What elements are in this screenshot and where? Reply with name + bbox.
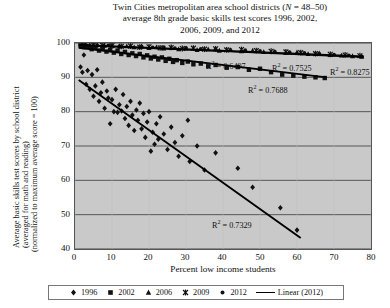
- legend-item-2002[interactable]: 2002: [106, 288, 134, 297]
- x-tick-80: 80: [359, 252, 383, 262]
- legend-item-2009[interactable]: 2009: [181, 288, 209, 297]
- legend-label: 2012: [230, 288, 246, 297]
- y-tick-60: 60: [48, 174, 70, 184]
- r2-2002-label: R2 = 0.7688: [248, 84, 288, 95]
- x-axis-title: Percent low income students: [74, 264, 372, 274]
- legend-label: 2006: [156, 288, 172, 297]
- legend-label: 2002: [118, 288, 134, 297]
- x-tick-50: 50: [248, 252, 272, 262]
- x-tick-70: 70: [322, 252, 346, 262]
- legend-cross-marker-icon: [181, 288, 190, 297]
- r2-2006-label: R2 = 0.6497: [206, 60, 246, 71]
- title-line-1: Twin Cities metropolitan area school dis…: [113, 2, 327, 12]
- y-tick-70: 70: [48, 140, 70, 150]
- legend-diamond-marker-icon: [69, 288, 78, 297]
- chart-figure: Twin Cities metropolitan area school dis…: [0, 0, 390, 308]
- x-tick-10: 10: [99, 252, 123, 262]
- y-axis-title-line-3: (normalized to maximum average score = 1…: [30, 96, 39, 252]
- chart-legend: 19962002200620092012Linear (2012): [48, 285, 344, 300]
- chart-title: Twin Cities metropolitan area school dis…: [55, 2, 385, 36]
- legend-triangle-marker-icon: [144, 288, 153, 297]
- x-tick-40: 40: [210, 252, 234, 262]
- r2-1996-label: R2 = 0.7329: [212, 219, 252, 230]
- y-axis-title-line-1: Average basic skills test scores by scho…: [12, 86, 21, 248]
- r2-2012-label: R2 = 0.8275: [330, 66, 370, 77]
- y-axis-title: Average basic skills test scores by scho…: [0, 0, 46, 260]
- title-line-3: 2006, 2009, and 2012: [180, 25, 260, 35]
- legend-label: 1996: [81, 288, 97, 297]
- y-tick-90: 90: [48, 71, 70, 81]
- y-tick-100: 100: [48, 37, 70, 47]
- legend-label: Linear (2012): [278, 288, 323, 297]
- y-tick-80: 80: [48, 105, 70, 115]
- y-axis-title-line-2: (averaged for math and reading): [21, 141, 30, 248]
- legend-item-2006[interactable]: 2006: [144, 288, 172, 297]
- legend-dot-marker-icon: [218, 288, 227, 297]
- legend-square-marker-icon: [106, 288, 115, 297]
- legend-line-marker: [256, 292, 275, 293]
- x-tick-20: 20: [136, 252, 160, 262]
- legend-item-linear-2012[interactable]: Linear (2012): [256, 288, 323, 297]
- r2-2009-label: R2 = 0.7525: [272, 62, 312, 73]
- x-tick-30: 30: [173, 252, 197, 262]
- y-tick-50: 50: [48, 209, 70, 219]
- x-tick-0: 0: [62, 252, 86, 262]
- legend-label: 2009: [193, 288, 209, 297]
- legend-item-2012[interactable]: 2012: [218, 288, 246, 297]
- series-1996: [78, 52, 299, 233]
- legend-item-1996[interactable]: 1996: [69, 288, 97, 297]
- title-line-2: average 8th grade basic skills test scor…: [123, 13, 317, 23]
- x-tick-60: 60: [285, 252, 309, 262]
